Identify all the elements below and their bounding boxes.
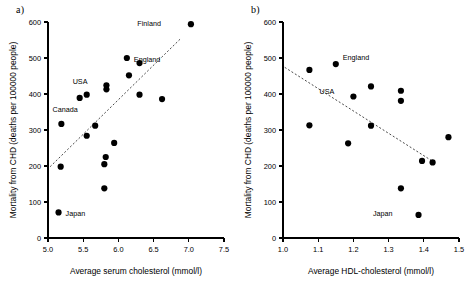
data-point xyxy=(430,159,436,165)
x-axis-title: Average serum cholesterol (mmol/l) xyxy=(70,266,202,276)
data-point xyxy=(188,21,194,27)
y-tick-label: 400 xyxy=(29,90,41,99)
data-point xyxy=(101,185,107,191)
data-point xyxy=(101,161,107,167)
y-tick-label: 100 xyxy=(264,198,276,207)
x-tick-label: 5.5 xyxy=(78,245,88,254)
x-tick-label: 1.4 xyxy=(419,245,429,254)
data-point xyxy=(368,123,374,129)
panel-b: b) 01002003004005006001.01.11.21.31.41.5… xyxy=(235,0,470,291)
panel-a-plot: 01002003004005006005.05.56.06.57.07.5Jap… xyxy=(0,0,235,291)
y-axis-title: Mortality from CHD (deaths per 100000 pe… xyxy=(8,42,18,219)
data-point xyxy=(159,96,165,102)
x-tick-label: 5.0 xyxy=(43,245,53,254)
data-point-label: England xyxy=(343,53,369,62)
data-point-label: Finland xyxy=(137,19,161,28)
x-tick-label: 7.5 xyxy=(219,245,229,254)
y-tick-label: 600 xyxy=(264,18,276,27)
y-tick-label: 600 xyxy=(29,18,41,27)
data-point-label: Japan xyxy=(373,209,393,218)
data-point xyxy=(445,134,451,140)
y-tick-label: 200 xyxy=(29,162,41,171)
data-point xyxy=(368,83,374,89)
data-point xyxy=(84,92,90,98)
data-point-label: USA xyxy=(73,77,88,86)
data-point xyxy=(345,140,351,146)
x-tick-label: 1.2 xyxy=(348,245,358,254)
x-tick-label: 1.5 xyxy=(454,245,464,254)
data-point xyxy=(136,92,142,98)
data-point xyxy=(398,88,404,94)
data-point xyxy=(103,154,109,160)
data-point xyxy=(398,185,404,191)
y-tick-label: 300 xyxy=(29,126,41,135)
x-tick-label: 7.0 xyxy=(184,245,194,254)
trend-line xyxy=(50,39,180,167)
data-point-label: Japan xyxy=(66,209,86,218)
data-point xyxy=(55,209,61,215)
data-point xyxy=(58,121,64,127)
y-tick-label: 500 xyxy=(29,54,41,63)
data-point xyxy=(306,122,312,128)
x-tick-label: 6.5 xyxy=(148,245,158,254)
data-point xyxy=(84,133,90,139)
data-point xyxy=(111,140,117,146)
x-tick-label: 1.1 xyxy=(313,245,323,254)
y-axis-title: Mortality from CHD (deaths per 100000 pe… xyxy=(243,42,253,219)
y-tick-label: 200 xyxy=(264,162,276,171)
data-point xyxy=(77,95,83,101)
y-tick-label: 100 xyxy=(29,198,41,207)
data-point xyxy=(103,86,109,92)
y-tick-label: 0 xyxy=(37,234,41,243)
data-point xyxy=(333,61,339,67)
panel-b-plot: 01002003004005006001.01.11.21.31.41.5Eng… xyxy=(235,0,470,291)
x-tick-label: 1.0 xyxy=(278,245,288,254)
data-point xyxy=(136,60,142,66)
y-tick-label: 0 xyxy=(272,234,276,243)
data-point xyxy=(398,98,404,104)
x-tick-label: 6.0 xyxy=(113,245,123,254)
data-point xyxy=(415,212,421,218)
trend-line xyxy=(285,67,436,163)
data-point xyxy=(126,72,132,78)
data-point xyxy=(419,158,425,164)
data-point xyxy=(350,93,356,99)
data-point xyxy=(306,67,312,73)
y-tick-label: 300 xyxy=(264,126,276,135)
data-point xyxy=(92,123,98,129)
data-point xyxy=(58,164,64,170)
x-axis-title: Average HDL-cholesterol (mmol/l) xyxy=(308,266,434,276)
data-point-label: Canada xyxy=(52,105,77,114)
y-tick-label: 500 xyxy=(264,54,276,63)
data-point xyxy=(124,55,130,61)
x-tick-label: 1.3 xyxy=(383,245,393,254)
y-tick-label: 400 xyxy=(264,90,276,99)
data-point-label: USA xyxy=(320,87,335,96)
panel-a: a) 01002003004005006005.05.56.06.57.07.5… xyxy=(0,0,235,291)
figure-container: a) 01002003004005006005.05.56.06.57.07.5… xyxy=(0,0,470,291)
